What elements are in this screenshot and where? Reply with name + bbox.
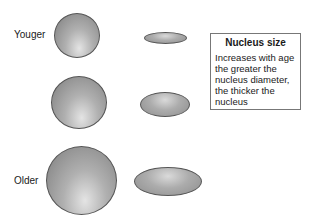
- young-nucleus-disc: [144, 32, 187, 44]
- young-nucleus-sphere: [54, 13, 100, 58]
- younger-label: Youger: [14, 29, 45, 40]
- info-box-title: Nucleus size: [215, 37, 296, 48]
- info-box-body: Increases with age the greater the nucle…: [215, 52, 296, 107]
- nucleus-size-info-box: Nucleus size Increases with age the grea…: [210, 33, 301, 110]
- old-nucleus-disc: [134, 167, 202, 196]
- middle-nucleus-sphere: [51, 76, 107, 129]
- old-nucleus-sphere: [46, 146, 117, 215]
- older-label: Older: [14, 175, 38, 186]
- middle-nucleus-disc: [140, 92, 190, 117]
